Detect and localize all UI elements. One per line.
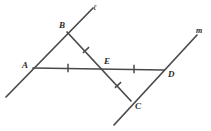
segment-BC [67, 32, 131, 101]
segments-group [33, 32, 164, 101]
line-label-l: ℓ [93, 4, 96, 12]
geometry-diagram: ℓ m A B C D E [0, 0, 211, 131]
point-label-B: B [59, 21, 65, 30]
lines-group [6, 8, 197, 125]
point-label-D: D [168, 70, 175, 79]
point-label-A: A [22, 61, 28, 70]
line-l [6, 8, 93, 97]
point-label-C: C [135, 102, 141, 111]
line-label-m: m [196, 27, 202, 35]
line-m [114, 35, 197, 125]
segment-AD [33, 68, 164, 70]
point-label-E: E [104, 57, 110, 66]
